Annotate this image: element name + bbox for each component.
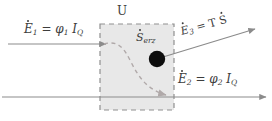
label-energy-outflow-2: E2 = φ2 IQ <box>178 73 237 87</box>
outflow-arrow-3 <box>163 29 255 57</box>
e1-symbol: E <box>24 23 33 35</box>
e3-symbol: E <box>179 24 190 37</box>
e1-current-subscript: Q <box>77 28 83 37</box>
control-volume-label: U <box>117 5 127 17</box>
thermodynamic-energy-balance-diagram: U E1 = φ1 IQ Serz E3 = T S E2 = φ2 IQ <box>0 0 272 121</box>
serz-subscript: erz <box>144 36 156 45</box>
serz-symbol: S <box>136 32 144 43</box>
label-energy-inflow-1: E1 = φ1 IQ <box>24 23 83 37</box>
e1-equals: = <box>41 22 51 36</box>
e1-phi-subscript: 1 <box>64 28 69 37</box>
e1-subscript: 1 <box>33 28 38 37</box>
e2-subscript: 2 <box>187 78 192 87</box>
e3-equals: = <box>195 19 207 34</box>
diagram-canvas <box>0 0 272 121</box>
e2-symbol: E <box>178 73 187 85</box>
e2-current-subscript: Q <box>231 78 237 87</box>
e3-temperature: T <box>207 16 217 30</box>
label-entropy-generation: Serz <box>136 32 156 45</box>
e1-phi: φ <box>55 22 63 36</box>
e2-phi-subscript: 2 <box>218 78 223 87</box>
entropy-generation-node <box>149 51 165 67</box>
e2-phi: φ <box>209 72 217 86</box>
e2-equals: = <box>195 72 205 86</box>
